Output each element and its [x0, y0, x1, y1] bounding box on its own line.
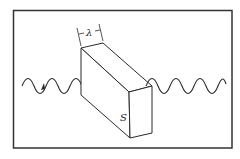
lambda-label: λ — [85, 27, 92, 38]
slab-end-face — [129, 86, 152, 138]
dimension-line-right — [99, 24, 103, 41]
diagram-canvas: λ S — [0, 0, 240, 159]
dimension-line-left — [77, 28, 81, 46]
outgoing-wave — [146, 79, 226, 94]
arrow-icon — [41, 83, 45, 90]
slab-label: S — [120, 112, 127, 123]
dimension-arrow-left — [79, 33, 84, 34]
dimension-arrow-right — [95, 30, 100, 31]
